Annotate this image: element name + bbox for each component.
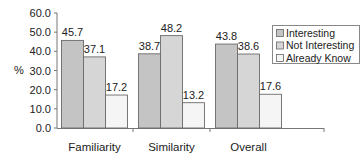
data-label: 38.7 — [139, 40, 160, 52]
data-label: 38.6 — [238, 40, 259, 52]
y-tick-label: 40.0 — [30, 45, 51, 57]
legend-swatch — [277, 42, 284, 49]
y-tick-label: 30.0 — [30, 65, 51, 77]
bar-interesting-familiarity — [62, 40, 84, 128]
legend-swatch — [277, 55, 284, 62]
y-tick-label: 20.0 — [30, 84, 51, 96]
data-label: 17.6 — [260, 80, 281, 92]
bar-interesting-similarity — [139, 54, 161, 128]
y-tick-label: 60.0 — [30, 7, 51, 19]
x-category-label: Familiarity — [68, 141, 121, 153]
data-label: 48.2 — [161, 22, 182, 34]
y-tick-label: 50.0 — [30, 26, 51, 38]
legend-label: Not Interesting — [286, 39, 354, 51]
x-category-label: Overall — [230, 141, 266, 153]
y-axis-label: % — [14, 64, 24, 76]
bar-not-interesting-overall — [238, 54, 260, 128]
y-tick-label: 10.0 — [30, 103, 51, 115]
legend-swatch — [277, 30, 284, 37]
y-tick-label: 0.0 — [36, 122, 51, 134]
data-label: 17.2 — [106, 81, 127, 93]
legend-label: Already Know — [286, 52, 351, 64]
bar-already-know-familiarity — [106, 95, 128, 128]
bar-not-interesting-familiarity — [84, 57, 106, 128]
x-category-label: Similarity — [148, 141, 195, 153]
bar-not-interesting-similarity — [161, 36, 183, 128]
legend-label: Interesting — [286, 27, 335, 39]
bar-chart: 0.010.020.030.040.050.060.0FamiliaritySi… — [0, 0, 361, 159]
data-label: 43.8 — [216, 30, 237, 42]
legend: InterestingNot InterestingAlready Know — [273, 26, 360, 64]
bar-already-know-similarity — [183, 103, 205, 128]
data-label: 13.2 — [183, 89, 204, 101]
data-label: 45.7 — [62, 26, 83, 38]
bar-interesting-overall — [216, 44, 238, 128]
bar-already-know-overall — [260, 94, 282, 128]
data-label: 37.1 — [84, 43, 105, 55]
